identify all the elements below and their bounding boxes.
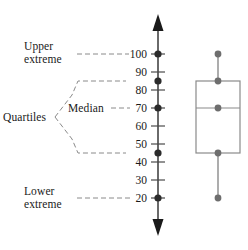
number-line-axis: [153, 14, 164, 236]
axis-arrow-up-icon: [153, 14, 164, 31]
lower-extreme-label-line2: extreme: [24, 198, 62, 211]
quartiles-label: Quartiles: [3, 111, 46, 124]
tick-label-100: 100: [130, 48, 148, 60]
plot-dot-upper-quartile: [215, 78, 222, 85]
plot-dot-lower-quartile: [215, 150, 222, 157]
tick-label-90: 90: [136, 66, 148, 78]
upper-extreme-label-line2: extreme: [24, 53, 62, 66]
tick-label-50: 50: [136, 138, 148, 150]
tick-label-40: 40: [136, 156, 148, 168]
lower-extreme-label: Lower extreme: [24, 185, 62, 211]
boxplot-graphic: 100 90 80 70 60 50 40 30 20: [0, 0, 248, 250]
axis-arrow-down-icon: [153, 219, 164, 236]
tick-label-30: 30: [136, 174, 148, 186]
axis-dot-lower-extreme: [154, 194, 161, 201]
tick-label-60: 60: [136, 120, 148, 132]
tick-label-70: 70: [136, 102, 148, 114]
plot-dot-median: [215, 105, 222, 112]
axis-tick-labels: 100 90 80 70 60 50 40 30 20: [130, 48, 148, 204]
plot-dot-upper-extreme: [215, 51, 222, 58]
upper-extreme-label-line1: Upper: [24, 40, 62, 53]
median-label: Median: [68, 102, 104, 115]
axis-dot-median: [154, 104, 161, 111]
plot-dot-lower-extreme: [215, 195, 222, 202]
axis-dot-lower-quartile: [154, 149, 161, 156]
tick-label-80: 80: [136, 84, 148, 96]
axis-dot-upper-quartile: [154, 77, 161, 84]
axis-dot-upper-extreme: [154, 50, 161, 57]
leader-lower-quartile: [55, 117, 126, 153]
boxplot-figure: 100 90 80 70 60 50 40 30 20: [0, 0, 248, 250]
lower-extreme-label-line1: Lower: [24, 185, 62, 198]
upper-extreme-label: Upper extreme: [24, 40, 62, 66]
box-and-whisker-plot: [196, 51, 240, 202]
tick-label-20: 20: [136, 192, 148, 204]
interquartile-box: [196, 81, 240, 153]
